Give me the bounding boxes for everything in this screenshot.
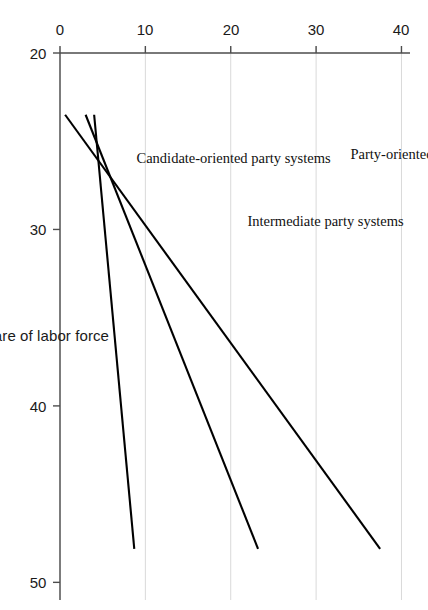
- x-tick-label-30: 30: [30, 221, 47, 238]
- x-tick-label-20: 20: [30, 45, 47, 62]
- rotated-figure-container: 20304050010203040 Party-oriented party s…: [0, 0, 428, 610]
- y-tick-label-10: 10: [137, 21, 154, 38]
- series-label-0: Party-oriented party systems: [350, 146, 428, 163]
- y-tick-label-0: 0: [56, 21, 64, 38]
- x-tick-label-40: 40: [30, 397, 47, 414]
- series-label-2: Candidate-oriented party systems: [137, 150, 331, 167]
- series-label-1: Intermediate party systems: [248, 213, 404, 230]
- y-tick-label-40: 40: [393, 21, 410, 38]
- x-tick-label-50: 50: [30, 574, 47, 591]
- tick-marks-group: [53, 46, 401, 582]
- plot-canvas: [0, 0, 428, 610]
- chart-figure: 20304050010203040 Party-oriented party s…: [0, 0, 428, 610]
- gridlines-group: [60, 47, 401, 600]
- y-tick-label-20: 20: [222, 21, 239, 38]
- y-tick-label-30: 30: [308, 21, 325, 38]
- x-axis-title: Female share of labor force: [0, 327, 321, 344]
